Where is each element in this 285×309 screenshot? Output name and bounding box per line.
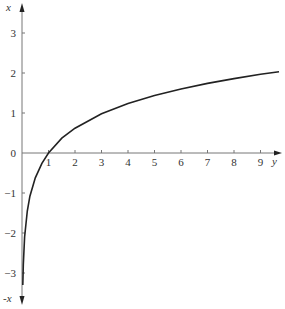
- arrow-down-icon: [20, 296, 25, 305]
- y-tick-label: 0: [11, 147, 17, 159]
- y-tick-label: 3: [11, 27, 17, 39]
- x-tick-label: 2: [72, 156, 78, 168]
- axes: [20, 3, 283, 305]
- log-curve: [23, 72, 279, 285]
- x-tick-label: 7: [205, 156, 211, 168]
- x-tick-label: 9: [258, 156, 264, 168]
- y-tick-label: −2: [4, 227, 16, 239]
- y-tick-label: −1: [4, 187, 16, 199]
- x-tick-label: 4: [125, 156, 131, 168]
- x-tick-label: 5: [152, 156, 158, 168]
- x-tick-label: 6: [178, 156, 184, 168]
- arrow-up-icon: [20, 3, 25, 12]
- x-tick-label: 8: [231, 156, 237, 168]
- y-tick-label: −3: [4, 267, 16, 279]
- y-tick-label: 1: [11, 107, 17, 119]
- x-tick-label: 1: [46, 156, 52, 168]
- x-tick-label: 3: [99, 156, 105, 168]
- vertical-axis-negative-label: -x: [3, 292, 12, 304]
- horizontal-axis-label: y: [271, 155, 277, 167]
- y-tick-label: 2: [11, 67, 17, 79]
- vertical-axis-label: x: [5, 1, 11, 13]
- chart: 1234567893210−1−2−3 x -x y: [0, 0, 285, 309]
